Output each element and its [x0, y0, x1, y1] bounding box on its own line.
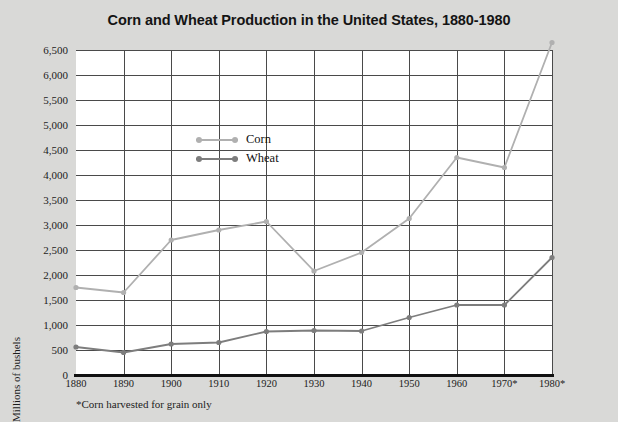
- y-axis-tick-label: 6,500: [43, 44, 68, 56]
- x-axis-tick-label: 1910: [208, 378, 229, 389]
- data-point-corn: [502, 165, 507, 170]
- x-axis-tick-label: 1940: [351, 378, 372, 389]
- chart-title: Corn and Wheat Production in the United …: [0, 12, 618, 28]
- y-axis-tick-label: 4,000: [43, 169, 68, 181]
- x-axis-tick-label: 1920: [256, 378, 277, 389]
- y-axis-tick-label: 3,500: [43, 194, 68, 206]
- data-point-wheat: [121, 350, 126, 355]
- data-point-corn: [169, 237, 174, 242]
- data-series-layer: [76, 50, 552, 375]
- y-axis-tick-label: 6,000: [43, 69, 68, 81]
- x-axis-tick-label: 1970*: [491, 378, 517, 389]
- x-axis-tick-label: 1980*: [539, 378, 565, 389]
- legend-swatch-wheat: [196, 154, 238, 164]
- chart-footnote: *Corn harvested for grain only: [76, 398, 212, 410]
- legend-swatch-corn: [196, 135, 238, 145]
- data-point-corn: [549, 40, 554, 45]
- data-point-wheat: [502, 302, 507, 307]
- data-point-corn: [359, 250, 364, 255]
- x-axis-tick-label: 1930: [304, 378, 325, 389]
- x-axis-tick-label: 1950: [399, 378, 420, 389]
- y-axis-tick-label: 5,500: [43, 94, 68, 106]
- data-point-wheat: [454, 302, 459, 307]
- x-axis-tick-label: 1900: [161, 378, 182, 389]
- y-axis-tick-labels: 6,5006,0005,5005,0004,5004,0003,5003,000…: [0, 50, 72, 375]
- data-point-wheat: [549, 255, 554, 260]
- y-axis-tick-label: 2,500: [43, 244, 68, 256]
- x-axis-tick-label: 1960: [446, 378, 467, 389]
- legend-item-corn: Corn: [196, 130, 326, 149]
- y-axis-tick-label: 5,000: [43, 119, 68, 131]
- y-axis-tick-label: 500: [52, 344, 69, 356]
- data-point-wheat: [407, 315, 412, 320]
- data-point-wheat: [311, 328, 316, 333]
- gridline-vertical: [552, 50, 553, 375]
- data-point-corn: [264, 219, 269, 224]
- data-point-wheat: [73, 344, 78, 349]
- data-point-corn: [407, 216, 412, 221]
- x-axis-tick-label: 1880: [66, 378, 87, 389]
- data-point-corn: [73, 285, 78, 290]
- chart-legend: Corn Wheat: [196, 130, 326, 168]
- y-axis-tick-label: 3,000: [43, 219, 68, 231]
- data-point-wheat: [264, 329, 269, 334]
- legend-label-corn: Corn: [246, 132, 271, 147]
- legend-label-wheat: Wheat: [246, 151, 279, 166]
- y-axis-tick-label: 2,000: [43, 269, 68, 281]
- data-point-corn: [121, 290, 126, 295]
- data-point-wheat: [359, 328, 364, 333]
- x-axis-line: [74, 374, 554, 377]
- y-axis-tick-label: 1,500: [43, 294, 68, 306]
- data-point-wheat: [169, 341, 174, 346]
- y-axis-tick-label: 4,500: [43, 144, 68, 156]
- legend-item-wheat: Wheat: [196, 149, 326, 168]
- plot-area: Corn Wheat: [76, 50, 552, 375]
- data-point-corn: [311, 268, 316, 273]
- data-point-corn: [454, 155, 459, 160]
- y-axis-tick-label: 1,000: [43, 319, 68, 331]
- x-axis-tick-label: 1890: [113, 378, 134, 389]
- data-point-wheat: [216, 340, 221, 345]
- data-point-corn: [216, 227, 221, 232]
